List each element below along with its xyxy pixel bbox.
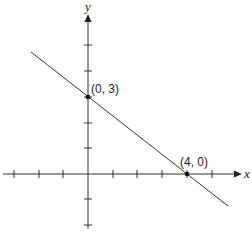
x-axis-label: x xyxy=(243,166,250,181)
x-axis-arrow-icon xyxy=(234,171,242,178)
graph-line xyxy=(31,52,228,206)
point-y-intercept xyxy=(86,95,91,100)
y-axis-arrow-icon xyxy=(85,14,92,22)
y-axis-label: y xyxy=(83,0,91,14)
coordinate-plane: x y (0, 3) (4, 0) xyxy=(0,0,252,233)
point-x-intercept-label: (4, 0) xyxy=(180,155,208,169)
point-y-intercept-label: (0, 3) xyxy=(91,82,119,96)
point-x-intercept xyxy=(185,172,190,177)
